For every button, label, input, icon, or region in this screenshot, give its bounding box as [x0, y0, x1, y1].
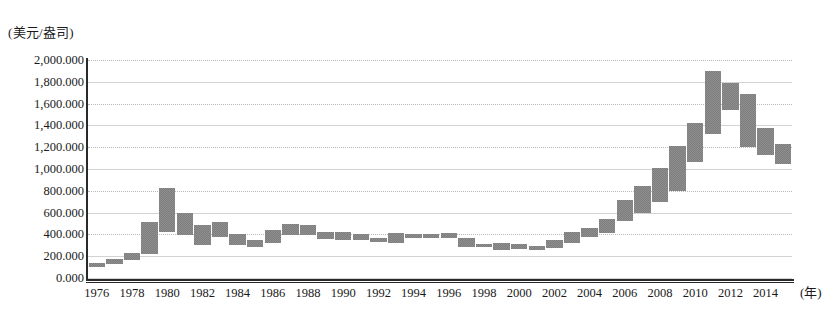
range-bar	[652, 168, 668, 202]
range-bar	[141, 222, 157, 254]
x-axis-line-secondary	[86, 282, 794, 283]
range-bar	[775, 144, 791, 164]
y-axis-tick-label: 1,400.000	[2, 119, 84, 131]
x-axis-tick-label: 2010	[683, 286, 708, 300]
range-bar	[458, 238, 474, 247]
range-bar	[493, 243, 509, 251]
x-axis-tick-label: 1978	[120, 286, 145, 300]
x-axis-tick-labels: 1976197819801982198419861988199019921994…	[0, 286, 836, 308]
x-axis-tick-label: 2002	[542, 286, 567, 300]
gridline	[88, 169, 792, 170]
plot-area	[88, 60, 792, 278]
range-bar	[370, 238, 386, 242]
x-axis-tick-label: 1994	[401, 286, 426, 300]
x-axis-line	[86, 279, 794, 281]
x-axis-tick-label: 1996	[436, 286, 461, 300]
x-axis-tick-label: 1992	[366, 286, 391, 300]
range-bar	[335, 232, 351, 240]
range-bar	[405, 234, 421, 237]
y-axis-tick-label: 1,800.000	[2, 76, 84, 88]
range-bar	[124, 253, 140, 260]
gridline	[88, 104, 792, 105]
y-axis-tick-label: 2,000.000	[2, 54, 84, 66]
range-bar	[441, 233, 457, 238]
range-bar	[476, 244, 492, 248]
y-axis-line	[86, 58, 88, 281]
y-axis-tick-label: 0.000	[2, 272, 84, 284]
x-axis-tick-label: 1980	[155, 286, 180, 300]
range-bar	[106, 259, 122, 263]
range-bar	[229, 234, 245, 244]
y-axis-tick-label: 1,600.000	[2, 98, 84, 110]
range-bar	[564, 232, 580, 243]
range-bar	[740, 94, 756, 147]
range-bar	[177, 213, 193, 236]
x-axis-tick-label: 2000	[507, 286, 532, 300]
range-bar	[722, 83, 738, 110]
range-bar	[757, 128, 773, 155]
range-bar	[89, 263, 105, 267]
range-bar	[599, 219, 615, 233]
range-bar	[529, 246, 545, 250]
range-bar	[300, 225, 316, 235]
range-bar	[546, 240, 562, 248]
x-axis-tick-label: 1990	[331, 286, 356, 300]
range-bar	[353, 234, 369, 241]
range-bar	[388, 233, 404, 242]
y-axis-tick-labels: 0.000200.000400.000600.000800.0001,000.0…	[0, 0, 84, 315]
range-bar	[247, 240, 263, 247]
x-axis-tick-label: 2014	[753, 286, 778, 300]
y-axis-tick-label: 600.000	[2, 207, 84, 219]
range-bar	[705, 71, 721, 134]
range-bar	[423, 234, 439, 237]
y-axis-tick-label: 1,200.000	[2, 141, 84, 153]
range-bar	[212, 222, 228, 237]
x-axis-tick-label: 1982	[190, 286, 215, 300]
x-axis-tick-label: 2004	[577, 286, 602, 300]
gridline	[88, 256, 792, 257]
x-axis-tick-label: 1988	[296, 286, 321, 300]
y-axis-tick-label: 1,000.000	[2, 163, 84, 175]
x-axis-tick-label: 2008	[648, 286, 673, 300]
x-axis-unit-label: (年)	[800, 286, 822, 300]
x-axis-tick-label: 1984	[225, 286, 250, 300]
x-axis-tick-label: 1998	[472, 286, 497, 300]
range-bar	[634, 186, 650, 212]
range-bar	[581, 228, 597, 237]
y-axis-tick-label: 400.000	[2, 228, 84, 240]
gridline	[88, 60, 792, 61]
gridline	[88, 213, 792, 214]
range-bar	[159, 188, 175, 233]
x-axis-tick-label: 1986	[260, 286, 285, 300]
x-axis-tick-label: 2006	[612, 286, 637, 300]
gold-price-range-chart: (美元/盎司) 0.000200.000400.000600.000800.00…	[0, 0, 836, 315]
gridline	[88, 82, 792, 83]
range-bar	[194, 225, 210, 246]
range-bar	[669, 146, 685, 191]
range-bar	[687, 123, 703, 162]
x-axis-tick-label: 2012	[718, 286, 743, 300]
gridline	[88, 191, 792, 192]
range-bar	[282, 224, 298, 236]
range-bar	[511, 244, 527, 249]
x-axis-tick-label: 1976	[84, 286, 109, 300]
range-bar	[265, 230, 281, 243]
range-bar	[617, 200, 633, 222]
y-axis-tick-label: 200.000	[2, 250, 84, 262]
range-bar	[317, 232, 333, 239]
y-axis-tick-label: 800.000	[2, 185, 84, 197]
